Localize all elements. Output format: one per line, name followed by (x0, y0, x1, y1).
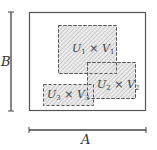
a-axis-label: A (81, 133, 90, 146)
set-u3-v3-label: U3 × V3 (47, 89, 89, 102)
b-axis-label: B (1, 55, 11, 68)
set-u2-v2-label: U2 × V2 (97, 79, 139, 92)
set-u1-v1-label: U1 × V1 (72, 43, 114, 56)
diagram-canvas (0, 0, 157, 150)
